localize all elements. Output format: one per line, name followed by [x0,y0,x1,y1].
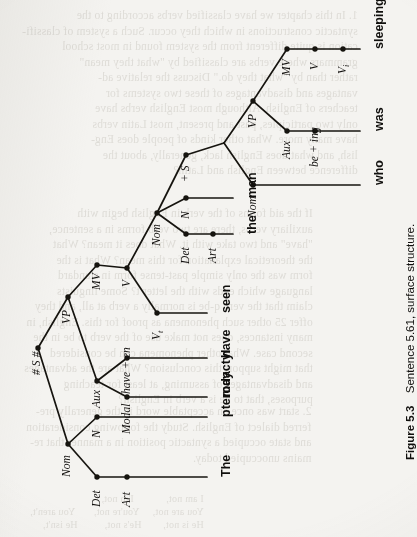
terminal-word-who: who [372,160,386,185]
figure-page: 1. In this chapter we have classified ve… [0,0,417,537]
node-label-s-root: # S # [30,352,42,376]
node-label-mv-2: MV [280,59,292,76]
node-label-v-2: V [308,63,320,70]
node-label-vp-rel: VP [246,114,258,128]
tree-branches [38,49,360,477]
terminal-word-the-2: the [245,215,259,234]
node-label-be-ing: be + ing [308,127,320,167]
node-label-det-2: Det [179,247,191,264]
node-label-nom-subj: Nom [60,455,72,477]
figure-caption: Figure 5.3 Sentence 5.61, surface struct… [404,224,416,460]
node-label-v-1: V [120,280,132,287]
node-label-aux-1: Aux [90,390,102,408]
node-label-n-2: N [179,211,191,219]
node-label-mv-1: MV [90,273,102,290]
figure-caption-label: Figure 5.3 [404,406,416,460]
node-label-art-1: Art [120,492,132,507]
node-label-v-t: Vt [150,330,165,340]
node-label-nom-obj: Nom [150,224,162,246]
terminal-word-the-1: The [219,455,233,477]
node-label-have-en: have + en [120,347,132,394]
node-label-modal: Modal [120,403,132,434]
terminal-word-seen: seen [219,285,233,314]
node-label-art-2: Art [206,248,218,263]
node-label-det-1: Det [90,490,102,507]
terminal-word-man: man [245,172,259,198]
node-label-embedded-s: + S [179,165,191,182]
terminal-word-sleeping: sleeping [372,0,386,49]
node-label-vp-main: VP [60,310,72,324]
node-label-aux-2: Aux [280,141,292,159]
figure-caption-text: Sentence 5.61, surface structure. [404,224,416,393]
node-label-n-1: N [90,430,102,438]
terminal-word-have: have [219,330,233,359]
node-label-v-i: Vi [336,64,351,74]
terminal-word-may: may [219,372,233,397]
terminal-word-was: was [372,107,386,131]
